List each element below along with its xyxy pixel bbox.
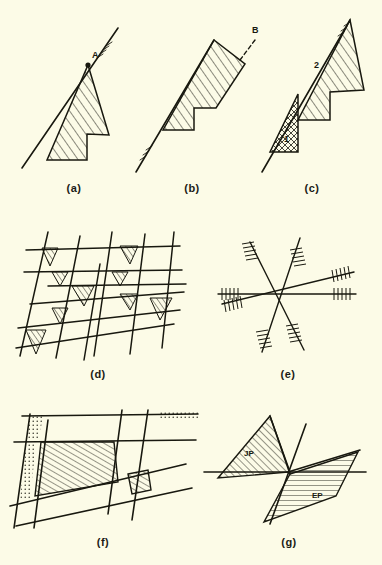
caption-c: (c) (252, 182, 372, 194)
panel-f (8, 400, 198, 530)
panel-f-drawing (8, 400, 198, 530)
panel-g: JP EP (200, 400, 378, 530)
point-a-label: A (92, 50, 99, 60)
hatched-block-right (128, 470, 151, 494)
caption-b: (b) (132, 182, 252, 194)
wedge-ep-label: EP (312, 491, 323, 500)
panel-e (208, 222, 368, 367)
wedge-jp-label: JP (244, 449, 254, 458)
panel-g-drawing: JP EP (200, 400, 378, 530)
caption-f: (f) (8, 536, 198, 548)
caption-e: (e) (208, 368, 368, 380)
panel-b-drawing: B (132, 8, 262, 178)
region-2-label: 2 (314, 60, 319, 70)
arm-tick-hatching (222, 242, 350, 348)
hatched-block-main (35, 442, 118, 496)
caption-g: (g) (200, 536, 378, 548)
hatched-block-b (163, 40, 245, 130)
panel-d-drawing (8, 228, 188, 363)
panel-c: 2 1 (252, 4, 380, 180)
hatched-block-a (47, 65, 109, 160)
panel-a-drawing: A (14, 8, 134, 178)
caption-a: (a) (14, 182, 134, 194)
radial-trace-set (218, 238, 356, 352)
caption-d: (d) (8, 368, 188, 380)
hatched-region-2 (298, 20, 364, 120)
panel-d (8, 228, 188, 363)
region-1-label: 1 (284, 134, 289, 144)
hatched-wedge-jp (218, 416, 290, 478)
hatched-intersection-patches (26, 246, 172, 354)
panel-b: B (132, 8, 262, 178)
panel-e-drawing (208, 222, 368, 367)
panel-a: A (14, 8, 134, 178)
panel-c-drawing: 2 1 (252, 4, 380, 180)
figure-root: A (a) B (b) (0, 0, 382, 565)
point-a-marker (85, 62, 90, 67)
